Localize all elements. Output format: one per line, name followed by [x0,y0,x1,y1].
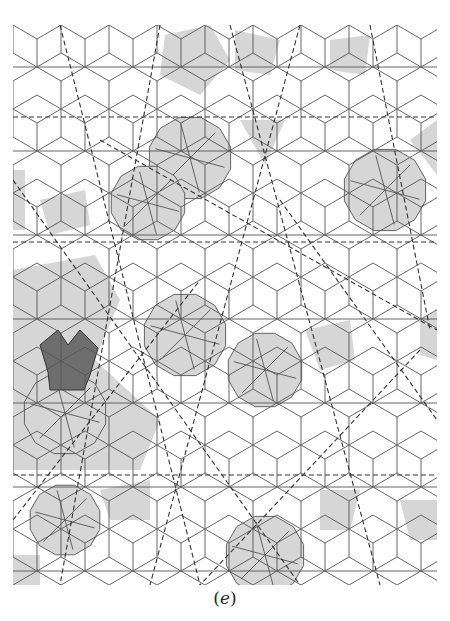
figure-caption: (e) [0,588,450,608]
tiling-area [13,25,437,590]
tiling-figure [0,0,450,590]
caption-letter: e [220,588,230,608]
